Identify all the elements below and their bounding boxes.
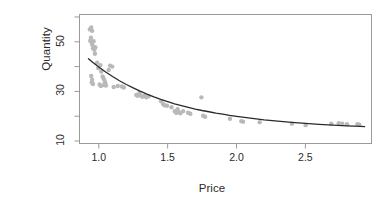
data-point	[169, 105, 173, 109]
x-tick-label: 2.0	[220, 151, 254, 163]
data-point	[89, 74, 93, 78]
data-point	[257, 120, 261, 124]
data-point	[90, 29, 94, 33]
data-point	[111, 85, 115, 89]
data-point	[91, 82, 95, 86]
data-point	[104, 83, 108, 87]
fitted-curve-line	[88, 59, 364, 127]
data-point	[110, 64, 114, 68]
plot-box	[80, 15, 372, 144]
data-point	[228, 116, 232, 120]
data-point	[122, 85, 126, 89]
y-tick-label: 50	[54, 28, 66, 54]
x-axis-tick-marks	[99, 144, 306, 149]
x-tick-label: 1.0	[82, 151, 116, 163]
scatter-point-group	[88, 25, 362, 127]
data-point	[199, 95, 203, 99]
data-point	[93, 52, 97, 56]
y-tick-label: 30	[54, 77, 66, 103]
data-point	[165, 104, 169, 108]
data-point	[99, 84, 103, 88]
data-point	[181, 109, 185, 113]
data-point	[116, 84, 120, 88]
y-axis-title: Quantity	[40, 13, 52, 85]
y-axis-tick-marks	[75, 17, 80, 141]
y-tick-label: 10	[54, 127, 66, 153]
data-point	[203, 115, 207, 119]
x-tick-label: 2.5	[288, 151, 322, 163]
data-point	[91, 39, 95, 43]
data-point	[93, 45, 97, 49]
x-axis-title: Price	[152, 182, 272, 194]
data-point	[188, 112, 192, 116]
data-point	[107, 68, 111, 72]
scatter-plot-figure: Quantity Price 503010 1.01.52.02.5	[0, 0, 389, 213]
data-point	[241, 119, 245, 123]
x-tick-label: 1.5	[151, 151, 185, 163]
